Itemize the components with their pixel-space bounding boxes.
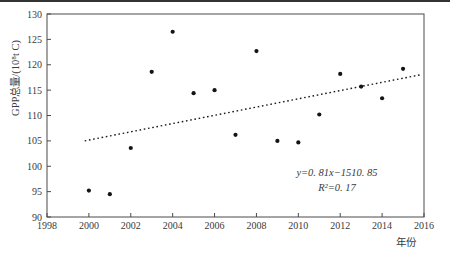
data-point (129, 146, 133, 150)
data-point (233, 133, 237, 137)
x-tick-label: 2014 (372, 220, 392, 231)
x-tick-label: 2008 (246, 220, 266, 231)
x-axis-title: 年份 (396, 234, 416, 249)
data-point (401, 67, 405, 71)
data-point (192, 91, 196, 95)
data-point (296, 140, 300, 144)
data-point (275, 139, 279, 143)
y-tick-label: 105 (27, 135, 42, 146)
y-tick-label: 115 (27, 85, 42, 96)
trend-line (85, 75, 420, 141)
y-tick-label: 95 (32, 186, 42, 197)
y-tick-label: 125 (27, 34, 42, 45)
x-tick-label: 2012 (330, 220, 350, 231)
y-tick-label: 130 (27, 9, 42, 20)
data-point (359, 84, 363, 88)
data-point (87, 189, 91, 193)
y-tick-label: 110 (27, 110, 42, 121)
r-squared-value: R²=0. 17 (318, 182, 356, 193)
data-point (108, 192, 112, 196)
y-tick-label: 90 (32, 212, 42, 223)
x-tick-label: 2016 (414, 220, 434, 231)
data-point (171, 30, 175, 34)
y-tick-label: 120 (27, 59, 42, 70)
x-tick-label: 2010 (288, 220, 308, 231)
x-tick-label: 2000 (79, 220, 99, 231)
x-tick-label: 2004 (163, 220, 183, 231)
x-tick-label: 2002 (121, 220, 141, 231)
regression-equation: y=0. 81x−1510. 85 (296, 167, 377, 178)
data-point (380, 96, 384, 100)
scatter-chart: 1998200020022004200620082010201220142016… (0, 0, 450, 257)
y-tick-label: 100 (27, 161, 42, 172)
data-point (338, 72, 342, 76)
data-point (254, 49, 258, 53)
data-point (317, 112, 321, 116)
data-point (212, 88, 216, 92)
plot-frame (47, 14, 424, 217)
y-axis-title: GPP总量/(10⁸t C) (7, 40, 22, 116)
data-point (150, 70, 154, 74)
x-tick-label: 2006 (205, 220, 225, 231)
